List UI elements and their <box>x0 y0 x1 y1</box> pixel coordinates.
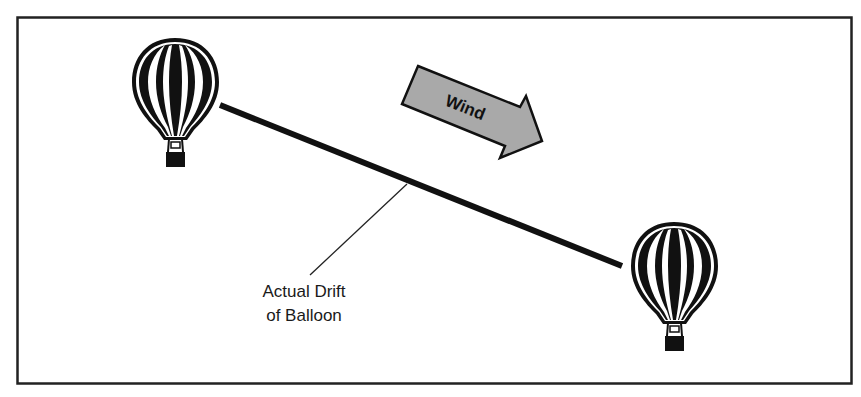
hot-air-balloon-icon <box>631 222 718 351</box>
balloon-drift-diagram: Actual Drift of Balloon Wind <box>0 0 861 397</box>
callout-leader-line <box>310 184 407 275</box>
callout-label-line2: of Balloon <box>266 306 342 325</box>
callout-label-line1: Actual Drift <box>262 282 345 301</box>
wind-arrow: Wind <box>402 66 542 158</box>
hot-air-balloon-icon <box>132 38 219 167</box>
drift-line <box>220 105 622 266</box>
